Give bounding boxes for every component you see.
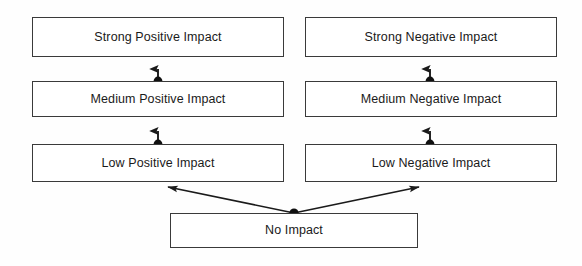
node-label: No Impact [265, 224, 323, 237]
node-strong-positive-impact[interactable]: Strong Positive Impact [32, 17, 284, 57]
node-medium-negative-impact[interactable]: Medium Negative Impact [305, 81, 557, 117]
edge-no-impact-to-low-negative [294, 187, 419, 213]
diagram-canvas: Strong Positive Impact Strong Negative I… [0, 0, 582, 266]
node-label: Strong Positive Impact [94, 31, 221, 44]
node-low-positive-impact[interactable]: Low Positive Impact [32, 144, 284, 182]
node-medium-positive-impact[interactable]: Medium Positive Impact [32, 81, 284, 117]
node-label: Low Negative Impact [372, 157, 491, 170]
node-low-negative-impact[interactable]: Low Negative Impact [305, 144, 557, 182]
node-label: Medium Positive Impact [91, 93, 226, 106]
edge-line [294, 187, 419, 213]
node-label: Medium Negative Impact [361, 93, 501, 106]
edge-line [168, 187, 294, 213]
node-label: Low Positive Impact [101, 157, 214, 170]
node-no-impact[interactable]: No Impact [170, 213, 418, 248]
node-strong-negative-impact[interactable]: Strong Negative Impact [305, 17, 557, 57]
node-label: Strong Negative Impact [365, 31, 498, 44]
edge-no-impact-to-low-positive [168, 187, 294, 213]
